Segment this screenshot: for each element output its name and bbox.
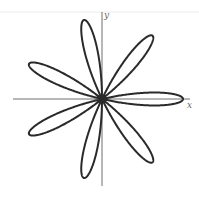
- polar-rose-figure: x y: [0, 0, 199, 198]
- x-axis-label: x: [187, 100, 192, 110]
- y-axis-label: y: [103, 10, 110, 20]
